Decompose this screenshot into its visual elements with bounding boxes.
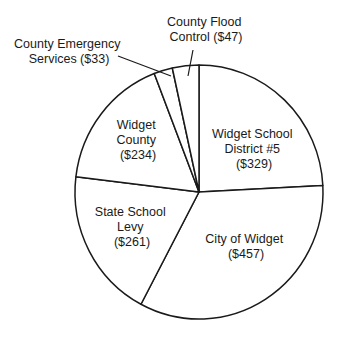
- pie-slices: [75, 65, 323, 319]
- pie-chart-svg: Widget School District #5 ($329) City of…: [0, 0, 340, 341]
- leader-line-emergency: [118, 56, 171, 76]
- label-county-emergency-services: County Emergency Services ($33): [14, 37, 124, 66]
- pie-chart: Widget School District #5 ($329) City of…: [0, 0, 340, 341]
- label-county-flood-control: County Flood Control ($47): [167, 15, 245, 44]
- label-widget-county: Widget County ($234): [116, 118, 159, 162]
